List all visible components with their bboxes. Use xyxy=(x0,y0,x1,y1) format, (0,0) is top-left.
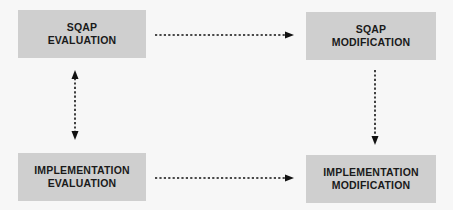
node-label-line-2: EVALUATION xyxy=(48,34,117,47)
node-sqap-evaluation: SQAP EVALUATION xyxy=(18,10,146,58)
node-label-line-2: MODIFICATION xyxy=(332,36,411,49)
arrow-impl-eval-to-impl-mod xyxy=(155,175,294,182)
node-label-line-1: SQAP xyxy=(356,23,387,36)
node-label-line-2: EVALUATION xyxy=(48,177,117,190)
node-label-line-1: IMPLEMENTATION xyxy=(323,166,419,179)
node-label-line-1: IMPLEMENTATION xyxy=(34,164,130,177)
node-label-line-1: SQAP xyxy=(67,21,98,34)
node-label-line-2: MODIFICATION xyxy=(332,179,411,192)
arrow-sqap-eval-to-sqap-mod xyxy=(155,32,294,39)
arrow-sqap-eval-impl-eval-bidirectional xyxy=(72,70,79,140)
node-implementation-modification: IMPLEMENTATION MODIFICATION xyxy=(306,155,436,203)
node-implementation-evaluation: IMPLEMENTATION EVALUATION xyxy=(18,153,146,201)
arrow-sqap-mod-to-impl-mod xyxy=(372,70,379,145)
node-sqap-modification: SQAP MODIFICATION xyxy=(306,12,436,60)
